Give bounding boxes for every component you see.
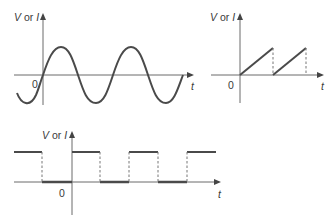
- square-y-label: V or I: [42, 129, 67, 141]
- sine-t-label: t: [191, 80, 195, 92]
- sawtooth-y-arrow-icon: [237, 13, 243, 20]
- sawtooth-ramp-2: [273, 48, 306, 75]
- sawtooth-ramp-1: [240, 48, 273, 75]
- square-panel: V or I 0 t: [14, 129, 222, 215]
- sawtooth-t-label: t: [321, 80, 325, 92]
- square-t-label: t: [218, 188, 222, 200]
- waveform-diagram: V or I 0 t V or I 0 t: [0, 0, 332, 221]
- sine-y-label: V or I: [14, 11, 39, 23]
- square-origin-label: 0: [59, 187, 65, 199]
- sine-x-arrow-icon: [187, 72, 194, 78]
- square-y-arrow-icon: [69, 131, 75, 138]
- sawtooth-origin-label: 0: [228, 79, 234, 91]
- sawtooth-y-label: V or I: [210, 11, 235, 23]
- sine-y-arrow-icon: [40, 13, 46, 20]
- square-x-arrow-icon: [214, 179, 221, 185]
- sine-origin-label: 0: [32, 78, 38, 90]
- sawtooth-panel: V or I 0 t: [210, 11, 325, 103]
- sawtooth-x-arrow-icon: [317, 72, 324, 78]
- sine-panel: V or I 0 t: [14, 11, 195, 105]
